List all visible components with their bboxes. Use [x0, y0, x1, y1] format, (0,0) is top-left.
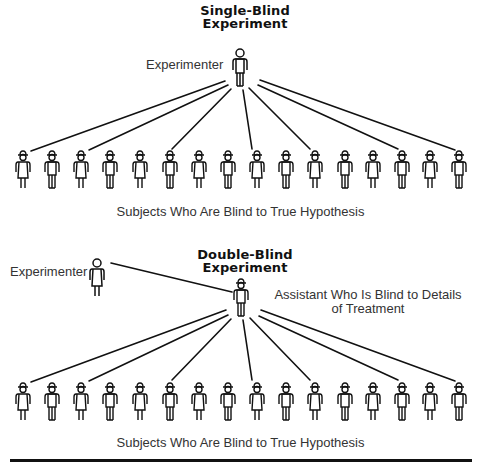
subject-dress-icon: [189, 382, 209, 422]
subject-pants-icon: [42, 382, 62, 422]
title-line-2: Experiment: [190, 261, 300, 274]
experimenter-label: Experimenter: [146, 58, 223, 72]
link-line: [249, 88, 310, 149]
bottom-divider: [10, 459, 472, 462]
subject-pants-icon: [335, 382, 355, 422]
assistant-label-line-2: of Treatment: [262, 302, 474, 316]
link-line: [89, 315, 228, 381]
subject-dress-icon: [13, 382, 33, 422]
subject-dress-icon: [363, 150, 383, 190]
subject-dress-icon: [363, 382, 383, 422]
experimenter-figure-icon: [230, 48, 250, 88]
assistant-label-line-1: Assistant Who Is Blind to Details: [262, 288, 474, 302]
subject-pants-icon: [218, 382, 238, 422]
subject-pants-icon: [276, 382, 296, 422]
link-line: [243, 90, 252, 149]
double-blind-title: Double-Blind Experiment: [190, 248, 300, 274]
subject-pants-icon: [392, 150, 412, 190]
experimenter-label: Experimenter: [10, 265, 87, 279]
link-line: [31, 310, 226, 382]
subject-dress-icon: [13, 150, 33, 190]
double-blind-subjects-caption: Subjects Who Are Blind to True Hypothesi…: [0, 436, 481, 450]
subject-dress-icon: [305, 382, 325, 422]
subject-pants-icon: [42, 150, 62, 190]
link-line: [31, 81, 225, 151]
link-line: [250, 318, 310, 380]
single-blind-title: Single-Blind Experiment: [190, 4, 300, 30]
assistant-label: Assistant Who Is Blind to Details of Tre…: [262, 288, 474, 316]
subject-pants-icon: [160, 382, 180, 422]
experimenter-figure-icon: [87, 258, 107, 298]
assistant-figure-icon: [231, 278, 251, 318]
link-line: [89, 85, 228, 150]
subject-dress-icon: [71, 150, 91, 190]
subject-dress-icon: [247, 382, 267, 422]
link-line: [243, 320, 252, 380]
subject-pants-icon: [449, 150, 469, 190]
subject-dress-icon: [71, 382, 91, 422]
subject-pants-icon: [160, 150, 180, 190]
link-line: [260, 80, 455, 150]
link-line: [261, 310, 455, 381]
subject-pants-icon: [276, 150, 296, 190]
subject-dress-icon: [305, 150, 325, 190]
subject-pants-icon: [449, 382, 469, 422]
subject-dress-icon: [130, 150, 150, 190]
subject-pants-icon: [100, 150, 120, 190]
subject-pants-icon: [100, 382, 120, 422]
subject-dress-icon: [247, 150, 267, 190]
title-line-2: Experiment: [190, 17, 300, 30]
subject-dress-icon: [189, 150, 209, 190]
subject-pants-icon: [392, 382, 412, 422]
subject-dress-icon: [420, 382, 440, 422]
subject-dress-icon: [130, 382, 150, 422]
subject-pants-icon: [218, 150, 238, 190]
single-blind-subjects-caption: Subjects Who Are Blind to True Hypothesi…: [0, 205, 481, 219]
subject-pants-icon: [335, 150, 355, 190]
subject-dress-icon: [420, 150, 440, 190]
